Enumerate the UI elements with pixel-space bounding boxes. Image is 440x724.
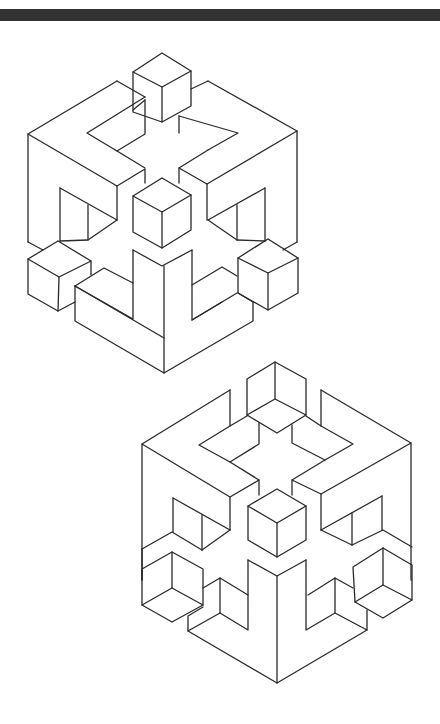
edge-line: [275, 399, 306, 415]
edge-line: [321, 390, 411, 580]
edge-line: [133, 53, 191, 87]
edge-line: [208, 81, 297, 242]
edge-line: [192, 267, 237, 285]
edge-line: [220, 578, 248, 595]
edge-line: [28, 259, 75, 311]
edge-line: [87, 97, 145, 151]
edge-line: [283, 242, 297, 250]
edge-line: [308, 578, 335, 595]
edge-line: [230, 390, 247, 426]
edge-line: [199, 423, 259, 462]
edge-line: [75, 250, 133, 319]
edge-line: [133, 178, 191, 212]
edge-line: [133, 250, 192, 266]
figure-convex-cube: [28, 53, 298, 373]
edge-line: [248, 560, 306, 576]
edge-line: [191, 81, 208, 89]
edge-line: [247, 362, 306, 433]
edge-line: [117, 81, 145, 97]
edge-line: [117, 151, 145, 168]
edge-line: [321, 530, 352, 545]
edge-line: [383, 585, 412, 600]
edge-line: [172, 588, 203, 605]
edge-line: [179, 116, 238, 150]
edge-line: [292, 443, 411, 494]
edge-line: [28, 242, 43, 250]
edge-line: [142, 444, 259, 497]
isometric-drawing-canvas: [0, 0, 440, 724]
edge-line: [238, 293, 253, 302]
edge-line: [238, 239, 298, 273]
edge-line: [133, 100, 145, 110]
edge-line: [202, 530, 230, 550]
edge-line: [335, 613, 367, 630]
edge-line: [179, 131, 297, 184]
edge-line: [192, 250, 237, 320]
figure-concave-cube: [142, 362, 412, 683]
edge-line: [28, 81, 117, 242]
edge-line: [142, 390, 230, 580]
edge-line: [352, 530, 412, 547]
edge-line: [306, 390, 321, 426]
edge-line: [192, 302, 222, 320]
edge-line: [28, 134, 145, 186]
edge-line: [75, 268, 133, 286]
edge-line: [142, 532, 202, 550]
edge-line: [248, 489, 306, 523]
edge-line: [58, 277, 59, 311]
edge-line: [292, 425, 353, 460]
edge-line: [230, 462, 259, 480]
